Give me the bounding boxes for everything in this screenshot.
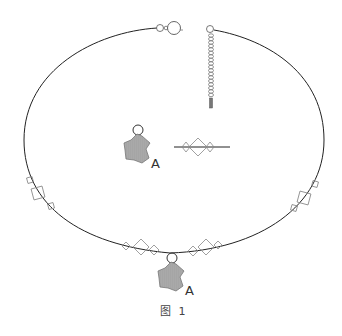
spring-ring-clasp: [157, 22, 184, 35]
pendant-label-a-top: A: [151, 157, 160, 170]
bead-unit-legend: [174, 138, 230, 156]
figure-caption: 图 1: [160, 306, 188, 317]
bead-cluster-left: [25, 175, 57, 212]
star-pendant-bottom: [158, 253, 184, 291]
bead-cluster-bottom-left: [122, 239, 159, 255]
star-pendant-legend: [124, 125, 150, 163]
bead-cluster-right: [289, 179, 321, 214]
necklace-diagram: A A 图 1: [0, 0, 342, 336]
chain-end-tip: [210, 98, 213, 108]
bead-cluster-bottom-right: [188, 239, 222, 256]
extender-chain: [207, 26, 214, 109]
necklace-wire: [24, 28, 324, 253]
pendant-label-a-bottom: A: [185, 284, 194, 297]
